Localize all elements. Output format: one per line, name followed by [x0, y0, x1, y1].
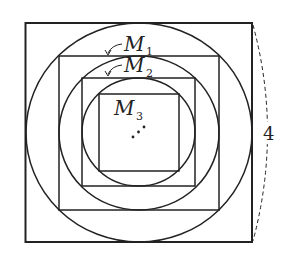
- nested-squares-circles-diagram: M 1 M 2 M 3 4: [0, 0, 293, 270]
- label-m3-sub: 3: [136, 110, 143, 123]
- label-m2: M: [123, 53, 145, 77]
- label-m1-sub: 1: [146, 45, 153, 58]
- ellipsis-dots: [132, 126, 146, 139]
- label-m2-sub: 2: [146, 67, 153, 80]
- side-length-label: 4: [263, 123, 274, 144]
- label-m3: M: [113, 96, 135, 120]
